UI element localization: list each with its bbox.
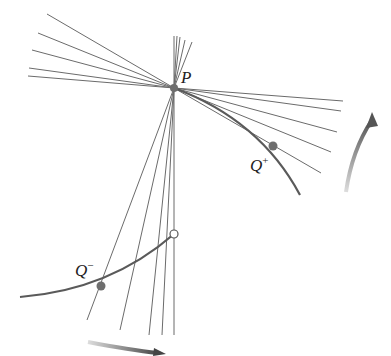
point-q-minus <box>97 282 106 291</box>
label-q-minus: Q− <box>75 259 94 281</box>
arrowhead-bottom-icon <box>153 348 166 356</box>
label-p: P <box>181 68 191 88</box>
open-point <box>170 230 178 238</box>
label-q-plus-sup: + <box>262 154 268 166</box>
point-q-plus <box>269 142 278 151</box>
arrow-bottom-icon <box>88 342 158 353</box>
arrowhead-right-icon <box>366 112 378 128</box>
point-p <box>170 84 178 92</box>
label-q-minus-sup: − <box>87 259 93 271</box>
arrow-right-icon <box>346 120 372 192</box>
secant-tangent-diagram <box>0 0 391 356</box>
label-q-plus: Q+ <box>250 154 269 176</box>
label-q-plus-text: Q <box>250 156 262 175</box>
curve-right <box>174 88 300 195</box>
label-q-minus-text: Q <box>75 261 87 280</box>
